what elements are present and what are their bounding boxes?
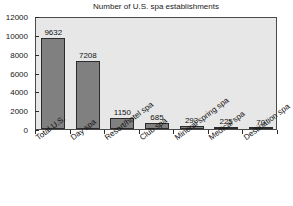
x-tick-label: Destination spa xyxy=(242,102,291,142)
x-tick-mark xyxy=(208,130,209,134)
x-axis: Total U.S.Day spaResort/hotel spaClub sp… xyxy=(0,0,293,206)
bar-chart-figure: Number of U.S. spa establishments 020004… xyxy=(0,0,293,206)
x-tick-mark xyxy=(35,130,36,134)
x-tick-mark xyxy=(173,130,174,134)
y-tick-mark xyxy=(35,92,39,93)
x-tick-mark xyxy=(277,130,278,134)
y-tick-mark xyxy=(35,74,39,75)
y-tick-mark xyxy=(35,111,39,112)
x-tick-mark xyxy=(139,130,140,134)
y-tick-mark xyxy=(35,55,39,56)
x-tick-mark xyxy=(70,130,71,134)
x-tick-label: Day spa xyxy=(69,117,98,142)
x-tick-label: Club spa xyxy=(138,116,169,142)
y-tick-mark xyxy=(35,17,39,18)
x-tick-label: Total U.S. xyxy=(34,114,67,142)
x-tick-mark xyxy=(104,130,105,134)
x-tick-mark xyxy=(242,130,243,134)
y-tick-mark xyxy=(35,36,39,37)
